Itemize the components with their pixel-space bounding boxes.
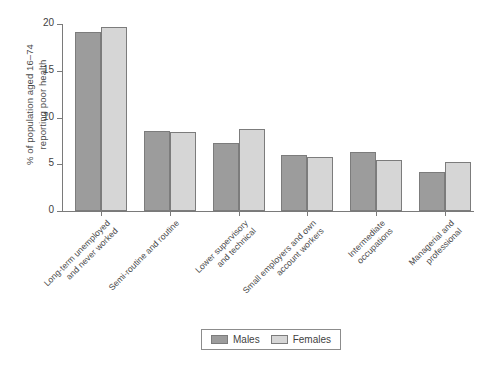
- x-axis-label-0: Long-term unemployed and never worked: [0, 218, 120, 339]
- legend-swatch-males-icon: [211, 335, 228, 344]
- bar-females-0: [101, 27, 127, 211]
- x-tick-5: [445, 211, 446, 216]
- bar-females-4: [376, 160, 402, 211]
- y-axis-label-wrapper: % of population aged 16–74 reporting poo…: [2, 0, 38, 215]
- legend-swatch-females-icon: [271, 335, 288, 344]
- plot-area: 05101520: [62, 24, 474, 211]
- bar-males-1: [144, 131, 170, 211]
- legend-item-females: Females: [271, 334, 331, 345]
- y-tick-15: 15: [57, 71, 62, 72]
- y-tick-label-0: 0: [48, 204, 54, 215]
- bar-females-1: [170, 132, 196, 211]
- legend-item-males: Males: [211, 334, 260, 345]
- y-tick-label-10: 10: [43, 111, 54, 122]
- bar-males-2: [213, 143, 239, 211]
- x-tick-1: [170, 211, 171, 216]
- y-tick-5: 5: [57, 164, 62, 165]
- bar-females-3: [307, 157, 333, 211]
- legend-label-females: Females: [293, 334, 331, 345]
- legend-label-males: Males: [233, 334, 260, 345]
- x-tick-3: [307, 211, 308, 216]
- y-tick-10: 10: [57, 118, 62, 119]
- bar-males-3: [281, 155, 307, 211]
- chart-legend: Males Females: [201, 329, 341, 350]
- bar-males-4: [350, 152, 376, 211]
- y-tick-label-5: 5: [48, 157, 54, 168]
- y-axis-line: [62, 24, 63, 211]
- bar-females-2: [239, 129, 265, 211]
- y-tick-label-20: 20: [43, 17, 54, 28]
- bar-males-0: [75, 32, 101, 211]
- bar-females-5: [445, 162, 471, 211]
- x-tick-4: [376, 211, 377, 216]
- x-axis-line: [62, 211, 474, 212]
- x-tick-2: [239, 211, 240, 216]
- bar-males-5: [419, 172, 445, 211]
- x-tick-0: [101, 211, 102, 216]
- y-tick-0: 0: [57, 211, 62, 212]
- bar-chart: % of population aged 16–74 reporting poo…: [0, 0, 486, 366]
- y-axis-label: % of population aged 16–74 reporting poo…: [24, 5, 49, 205]
- y-tick-20: 20: [57, 24, 62, 25]
- y-tick-label-15: 15: [43, 64, 54, 75]
